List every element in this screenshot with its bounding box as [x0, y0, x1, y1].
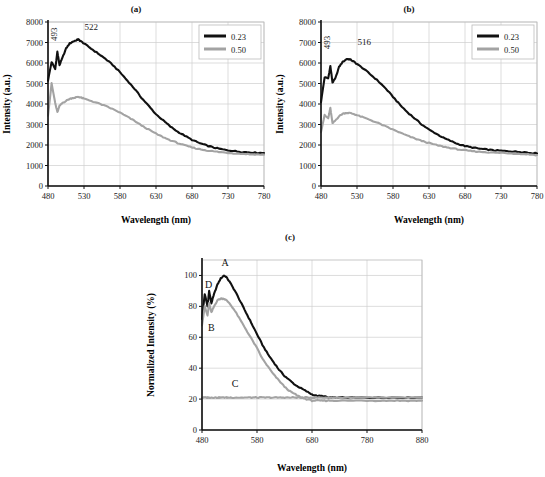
- y-tick-label: 1000: [26, 161, 43, 171]
- annotation-516: 516: [357, 37, 371, 47]
- y-tick-label: 60: [189, 332, 198, 342]
- x-axis-label: Wavelength (nm): [394, 215, 464, 226]
- x-axis-label: Wavelength (nm): [277, 463, 347, 474]
- y-tick-label: 7000: [26, 38, 43, 48]
- y-tick-label: 4000: [26, 99, 43, 109]
- y-tick-label: 2000: [299, 140, 316, 150]
- annotation-A: A: [221, 257, 229, 268]
- y-tick-label: 8000: [26, 17, 43, 27]
- y-tick-label: 80: [189, 301, 198, 311]
- annotation-493: 493: [49, 27, 59, 41]
- y-tick-label: 6000: [299, 58, 316, 68]
- y-tick-label: 0: [193, 425, 197, 435]
- x-tick-label: 480: [196, 435, 209, 445]
- y-tick-label: 20: [189, 394, 198, 404]
- panel-c: (c) 020406080100480580680780880ADBCWavel…: [140, 230, 440, 477]
- x-tick-label: 530: [351, 191, 364, 201]
- x-axis-label: Wavelength (nm): [121, 215, 191, 226]
- y-tick-label: 0: [312, 181, 316, 191]
- panel-b: (b) 010002000300040005000600070008000480…: [273, 0, 545, 230]
- x-tick-label: 630: [150, 191, 163, 201]
- legend-label-0.23: 0.23: [504, 32, 519, 42]
- y-tick-label: 3000: [299, 120, 316, 130]
- x-tick-label: 880: [416, 435, 429, 445]
- x-tick-label: 780: [361, 435, 374, 445]
- panel-a-title: (a): [0, 0, 272, 14]
- y-tick-label: 6000: [26, 58, 43, 68]
- annotation-C: C: [232, 378, 239, 389]
- x-tick-label: 680: [186, 191, 199, 201]
- panel-a: (a) 010002000300040005000600070008000480…: [0, 0, 272, 230]
- x-tick-label: 680: [459, 191, 472, 201]
- panel-c-plot: 020406080100480580680780880ADBCWavelengt…: [140, 242, 440, 474]
- legend-label-0.50: 0.50: [231, 45, 246, 55]
- x-tick-label: 780: [531, 191, 544, 201]
- y-tick-label: 5000: [299, 79, 316, 89]
- x-tick-label: 580: [251, 435, 264, 445]
- legend-label-0.50: 0.50: [504, 45, 519, 55]
- panel-a-svg: 0100020003000400050006000700080004805305…: [0, 14, 272, 226]
- panel-b-plot: 0100020003000400050006000700080004805305…: [273, 14, 545, 226]
- y-axis-label: Normalized Intensity (%): [146, 293, 157, 397]
- annotation-D: D: [205, 279, 212, 290]
- x-tick-label: 730: [495, 191, 508, 201]
- x-tick-label: 780: [258, 191, 271, 201]
- x-tick-label: 580: [387, 191, 400, 201]
- y-tick-label: 40: [189, 363, 198, 373]
- panel-b-title: (b): [273, 0, 545, 14]
- y-tick-label: 1000: [299, 161, 316, 171]
- x-tick-label: 630: [423, 191, 436, 201]
- y-tick-label: 5000: [26, 79, 43, 89]
- y-axis-label: Intensity (a.u.): [2, 74, 13, 133]
- x-tick-label: 730: [222, 191, 235, 201]
- panel-c-svg: 020406080100480580680780880ADBCWavelengt…: [140, 242, 440, 474]
- annotation-B: B: [208, 322, 215, 333]
- legend-label-0.23: 0.23: [231, 32, 246, 42]
- x-tick-label: 680: [306, 435, 319, 445]
- y-tick-label: 4000: [299, 99, 316, 109]
- y-tick-label: 8000: [299, 17, 316, 27]
- series-line-C: [202, 397, 422, 398]
- annotation-493: 493: [322, 35, 332, 49]
- x-tick-label: 480: [42, 191, 55, 201]
- x-tick-label: 480: [315, 191, 328, 201]
- y-tick-label: 0: [39, 181, 43, 191]
- y-tick-label: 7000: [299, 38, 316, 48]
- y-tick-label: 2000: [26, 140, 43, 150]
- panel-a-plot: 0100020003000400050006000700080004805305…: [0, 14, 272, 226]
- x-tick-label: 580: [114, 191, 127, 201]
- y-axis-label: Intensity (a.u.): [275, 74, 286, 133]
- panel-b-svg: 0100020003000400050006000700080004805305…: [273, 14, 545, 226]
- x-tick-label: 530: [78, 191, 91, 201]
- panel-c-title: (c): [140, 230, 440, 242]
- y-tick-label: 100: [184, 270, 197, 280]
- annotation-522: 522: [84, 22, 98, 32]
- y-tick-label: 3000: [26, 120, 43, 130]
